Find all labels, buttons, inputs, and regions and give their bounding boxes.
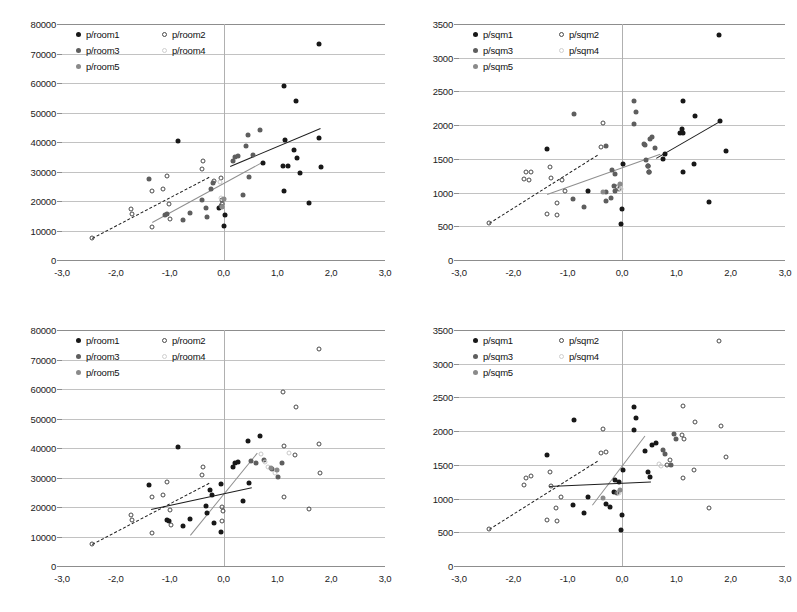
- legend-marker-icon: [162, 32, 167, 37]
- legend-item-p/room1[interactable]: p/room1: [76, 335, 162, 346]
- legend-item-p/sqm3[interactable]: p/sqm3: [473, 45, 559, 56]
- data-point: [681, 131, 686, 136]
- x-axis-tick-label: 3,0: [779, 267, 792, 278]
- data-point: [617, 479, 622, 484]
- data-point: [199, 166, 204, 171]
- data-point: [253, 461, 258, 466]
- data-point: [287, 451, 292, 456]
- y-tick-mark: [454, 499, 459, 500]
- legend-item-p/sqm4[interactable]: p/sqm4: [559, 45, 645, 56]
- x-axis-tick-label: 1,0: [670, 573, 683, 584]
- legend-label: p/sqm2: [569, 29, 599, 40]
- data-point: [609, 195, 614, 200]
- data-point: [621, 162, 626, 167]
- legend-item-p/sqm1[interactable]: p/sqm1: [473, 29, 559, 40]
- y-tick-mark: [57, 142, 62, 143]
- data-point: [298, 170, 303, 175]
- data-point: [263, 459, 268, 464]
- y-axis-tick-label: 500: [438, 527, 453, 538]
- trendline-dashed: [489, 461, 598, 530]
- x-axis-tick-label: -1,0: [162, 573, 178, 584]
- data-point: [187, 211, 192, 216]
- legend-item-p/room5[interactable]: p/room5: [76, 367, 162, 378]
- legend: p/room1p/room2p/room3p/room4p/room5: [76, 332, 248, 380]
- legend-label: p/room1: [86, 29, 119, 40]
- y-axis-tick-label: 3000: [433, 358, 453, 369]
- data-point: [581, 205, 586, 210]
- data-point: [620, 512, 625, 517]
- data-point: [680, 98, 685, 103]
- data-point: [150, 188, 155, 193]
- y-tick-mark: [454, 431, 459, 432]
- legend-item-p/sqm5[interactable]: p/sqm5: [473, 61, 559, 72]
- y-tick-mark: [57, 201, 62, 202]
- legend-label: p/room4: [172, 45, 205, 56]
- legend-item-p/room1[interactable]: p/room1: [76, 29, 162, 40]
- legend-item-p/sqm2[interactable]: p/sqm2: [559, 29, 645, 40]
- data-point: [603, 198, 608, 203]
- data-point: [281, 189, 286, 194]
- legend-marker-icon: [76, 64, 81, 69]
- y-axis-tick-label: 30000: [31, 472, 56, 483]
- legend-label: p/sqm5: [483, 367, 513, 378]
- legend-item-p/room4[interactable]: p/room4: [162, 351, 248, 362]
- data-point: [659, 463, 664, 468]
- data-point: [306, 201, 311, 206]
- legend-item-p/sqm5[interactable]: p/sqm5: [473, 367, 559, 378]
- legend-item-p/sqm4[interactable]: p/sqm4: [559, 351, 645, 362]
- legend-marker-icon: [162, 354, 167, 359]
- y-tick-mark: [57, 330, 62, 331]
- data-point: [613, 188, 618, 193]
- data-point: [187, 517, 192, 522]
- legend-item-p/room4[interactable]: p/room4: [162, 45, 248, 56]
- x-axis-tick-label: 0,0: [217, 267, 230, 278]
- legend-label: p/sqm3: [483, 45, 513, 56]
- data-point: [553, 506, 558, 511]
- data-point: [545, 518, 550, 523]
- y-axis-tick-label: 1500: [433, 153, 453, 164]
- legend-item-p/sqm2[interactable]: p/sqm2: [559, 335, 645, 346]
- legend-item-p/room3[interactable]: p/room3: [76, 351, 162, 362]
- data-point: [205, 511, 210, 516]
- panel-bottom-right: 0500100015002000250030003500-3,0-2,0-1,0…: [397, 306, 797, 612]
- data-point: [181, 218, 186, 223]
- legend-item-p/room2[interactable]: p/room2: [162, 335, 248, 346]
- data-point: [724, 148, 729, 153]
- y-tick-mark: [57, 419, 62, 420]
- legend-item-p/sqm3[interactable]: p/sqm3: [473, 351, 559, 362]
- data-point: [317, 42, 322, 47]
- y-axis-tick-label: 1500: [433, 459, 453, 470]
- data-point: [275, 468, 280, 473]
- data-point: [209, 187, 214, 192]
- y-tick-mark: [454, 364, 459, 365]
- data-point: [276, 474, 281, 479]
- data-point: [619, 221, 624, 226]
- legend-item-p/room2[interactable]: p/room2: [162, 29, 248, 40]
- data-point: [680, 169, 685, 174]
- legend-row: p/sqm5: [473, 58, 645, 74]
- data-point: [89, 235, 94, 240]
- x-axis-tick-label: -1,0: [560, 267, 576, 278]
- y-axis-tick-label: 0: [448, 255, 453, 266]
- data-point: [572, 111, 577, 116]
- y-axis-tick-label: 70000: [31, 354, 56, 365]
- legend-marker-icon: [76, 354, 81, 359]
- legend-row: p/sqm5: [473, 364, 645, 380]
- data-point: [260, 160, 265, 165]
- data-point: [199, 197, 204, 202]
- legend-item-p/room5[interactable]: p/room5: [76, 61, 162, 72]
- data-point: [259, 451, 264, 456]
- data-point: [149, 530, 154, 535]
- legend-marker-icon: [473, 64, 478, 69]
- y-axis-tick-label: 70000: [31, 48, 56, 59]
- data-point: [631, 428, 636, 433]
- legend-item-p/room3[interactable]: p/room3: [76, 45, 162, 56]
- data-point: [603, 144, 608, 149]
- y-axis-tick-label: 3500: [433, 325, 453, 336]
- data-point: [682, 436, 687, 441]
- legend-marker-icon: [473, 354, 478, 359]
- legend-item-p/sqm1[interactable]: p/sqm1: [473, 335, 559, 346]
- data-point: [245, 132, 250, 137]
- y-axis-tick-label: 3000: [433, 52, 453, 63]
- data-point: [129, 517, 134, 522]
